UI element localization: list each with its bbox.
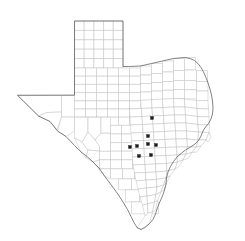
county-cell [163, 72, 174, 82]
county-cell [185, 90, 197, 99]
county-cell [97, 76, 108, 84]
county-cell [119, 76, 130, 84]
county-cell [153, 124, 165, 133]
county-cell [100, 160, 111, 169]
county-cell [141, 84, 152, 92]
county-cell [113, 21, 123, 30]
county-cell [94, 30, 104, 39]
county-cell [104, 59, 114, 68]
county-cell [104, 21, 114, 30]
county-cell [104, 40, 114, 49]
county-cell [165, 131, 177, 140]
county-cell [86, 93, 97, 101]
county-cell [111, 160, 122, 169]
county-cell [75, 59, 85, 68]
map-marker [129, 146, 132, 149]
county-cell [75, 68, 86, 76]
county-cell [75, 49, 85, 58]
county-cell [141, 75, 152, 84]
county-cell [108, 76, 119, 84]
county-cell [97, 101, 108, 109]
map-marker [147, 135, 150, 138]
county-cell [152, 108, 164, 117]
county-cell [166, 147, 178, 156]
county-cell [94, 49, 104, 58]
county-cell [86, 76, 97, 84]
county-cell [100, 151, 111, 160]
county-cell [133, 157, 146, 166]
county-cell [113, 59, 123, 68]
county-cell [122, 134, 133, 143]
map-marker [136, 145, 139, 148]
county-cell [84, 30, 94, 39]
county-cell [108, 109, 119, 117]
county-cell [75, 40, 85, 49]
county-cell [164, 115, 176, 124]
county-cell [175, 115, 187, 123]
county-cell [119, 179, 132, 190]
county-cell [152, 91, 163, 100]
county-cell [130, 76, 141, 84]
county-cell [113, 49, 123, 58]
county-cell [174, 71, 185, 81]
county-cell [119, 84, 130, 92]
county-cell [141, 100, 153, 109]
county-cell [130, 117, 143, 126]
county-cell [130, 84, 141, 92]
county-layer-panhandle [75, 21, 124, 68]
county-cell [135, 173, 147, 182]
county-cell [101, 117, 111, 133]
county-cell [198, 125, 210, 133]
county-cell [197, 91, 209, 101]
county-cell [153, 116, 165, 125]
county-cell [97, 68, 108, 76]
county-cell [141, 66, 152, 75]
county-cell [131, 125, 144, 134]
county-cell [152, 83, 163, 92]
county-cell [136, 180, 147, 189]
county-cell [197, 101, 209, 110]
county-cell [163, 61, 174, 72]
map-marker [151, 117, 154, 120]
county-cell [104, 49, 114, 58]
county-cell [122, 151, 133, 160]
county-cell [152, 64, 163, 74]
county-cell [130, 109, 143, 118]
county-cell [97, 93, 108, 101]
county-cell [86, 101, 97, 109]
county-cell [108, 68, 119, 76]
county-cell [86, 68, 97, 76]
county-cell [143, 124, 154, 133]
map-marker [147, 143, 150, 146]
county-cell [119, 101, 130, 109]
county-cell [62, 95, 75, 117]
county-cell [154, 132, 166, 141]
county-cell [94, 21, 104, 30]
county-cell [113, 40, 123, 49]
county-cell [97, 84, 108, 92]
county-cell [145, 164, 156, 173]
county-cell [119, 109, 130, 117]
county-cell [84, 40, 94, 49]
county-cell [94, 59, 104, 68]
county-cell [75, 109, 86, 117]
county-cell [111, 143, 122, 152]
county-cell [174, 59, 185, 71]
county-cell [130, 68, 141, 76]
county-cell [198, 117, 210, 126]
county-cell [111, 125, 122, 134]
county-cell [163, 107, 175, 116]
county-cell [75, 84, 86, 92]
county-cell [131, 133, 144, 142]
county-cell [163, 90, 174, 99]
county-cell [108, 101, 119, 109]
county-cell [163, 82, 174, 91]
county-cell [197, 71, 208, 82]
county-cell [133, 165, 146, 174]
county-cell [156, 164, 168, 173]
county-cell [111, 134, 122, 143]
county-cell [174, 99, 186, 108]
county-cell [113, 30, 123, 39]
county-cell [176, 139, 188, 147]
county-cell [108, 93, 119, 101]
